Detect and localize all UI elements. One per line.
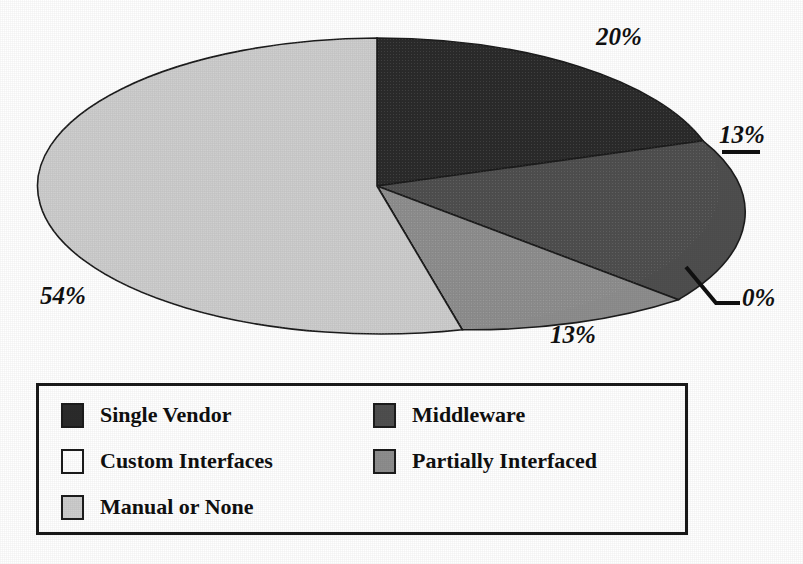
legend-swatch-middleware (373, 403, 396, 428)
legend-swatch-manual-or-none (61, 495, 84, 520)
legend-item-custom-interfaces: Custom Interfaces (61, 446, 273, 476)
pie-chart-plot-area: 20% 13% 0% 13% 54% (0, 0, 803, 372)
legend-label-partially-interfaced: Partially Interfaced (412, 450, 597, 472)
pie-texture-overlay (34, 38, 720, 334)
legend-item-manual-or-none: Manual or None (61, 492, 254, 522)
legend-swatch-custom-interfaces (61, 449, 84, 474)
legend-swatch-single-vendor (61, 403, 84, 428)
legend-label-custom-interfaces: Custom Interfaces (100, 450, 273, 472)
legend-item-partially-interfaced: Partially Interfaced (373, 446, 597, 476)
legend-swatch-partially-interfaced (373, 449, 396, 474)
legend-items-container: Single Vendor Custom Interfaces Manual o… (39, 386, 685, 532)
pie-label-partially-interfaced-pct: 13% (550, 322, 596, 347)
legend-label-single-vendor: Single Vendor (100, 404, 231, 426)
legend-item-middleware: Middleware (373, 400, 525, 430)
pie-label-custom-interfaces-pct: 0% (742, 285, 775, 310)
legend: Single Vendor Custom Interfaces Manual o… (36, 383, 688, 535)
pie-label-manual-or-none-pct: 54% (40, 283, 86, 308)
legend-item-single-vendor: Single Vendor (61, 400, 231, 430)
pie-label-single-vendor-pct: 20% (596, 24, 642, 49)
pie-chart-svg (0, 0, 803, 372)
legend-label-manual-or-none: Manual or None (100, 496, 254, 518)
legend-label-middleware: Middleware (412, 404, 525, 426)
pie-label-middleware-pct: 13% (719, 122, 765, 147)
pie-chart-figure: 20% 13% 0% 13% 54% Single Vendor Custom … (0, 0, 803, 564)
